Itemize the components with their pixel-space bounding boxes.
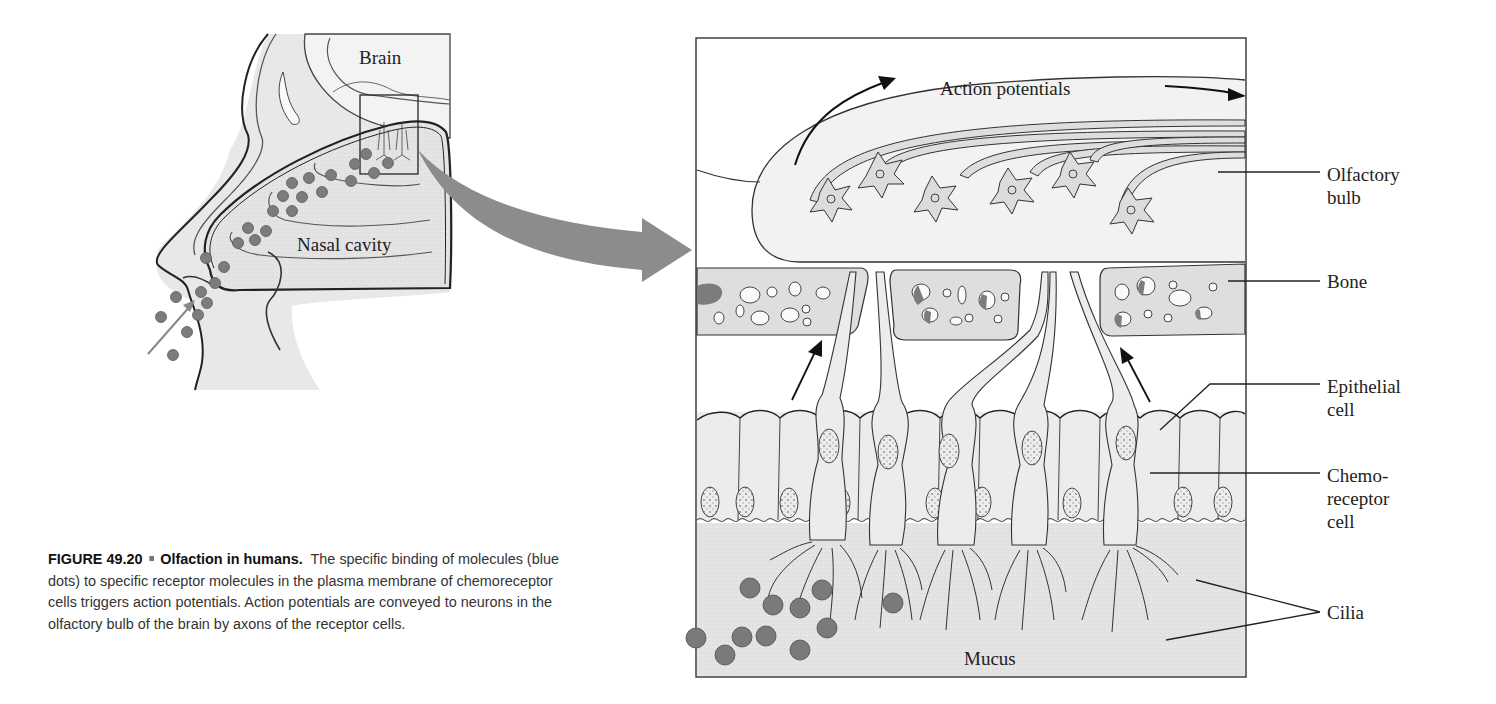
callout-olfactory-bulb: Olfactory bulb [1327, 163, 1400, 209]
callout-olfactory-bulb-line1: Olfactory [1327, 163, 1400, 186]
separator-square-icon [149, 556, 154, 561]
callout-bone-line1: Bone [1327, 270, 1367, 293]
label-nasal-cavity: Nasal cavity [297, 233, 391, 256]
bone-plates [697, 264, 1245, 340]
callout-bone: Bone [1327, 270, 1367, 293]
figure-title: Olfaction in humans. [160, 550, 303, 567]
zoom-transfer-arrow [418, 150, 692, 282]
figure-number: FIGURE 49.20 [48, 550, 143, 567]
label-action-potentials: Action potentials [940, 77, 1070, 100]
callout-chemoreceptor-cell: Chemo- receptor cell [1327, 464, 1389, 533]
callout-cilia: Cilia [1327, 601, 1364, 624]
olfaction-figure: Brain Nasal cavity Action potentials Muc… [0, 0, 1496, 704]
label-brain: Brain [359, 46, 401, 69]
label-mucus: Mucus [964, 647, 1016, 670]
callout-epithelial-line2: cell [1327, 398, 1401, 421]
callout-chemoreceptor-line1: Chemo- [1327, 464, 1389, 487]
callout-chemoreceptor-line3: cell [1327, 510, 1389, 533]
callout-epithelial-line1: Epithelial [1327, 375, 1401, 398]
callout-cilia-line1: Cilia [1327, 601, 1364, 624]
figure-caption: FIGURE 49.20Olfaction in humans. The spe… [48, 548, 578, 634]
callout-chemoreceptor-line2: receptor [1327, 487, 1389, 510]
callout-epithelial-cell: Epithelial cell [1327, 375, 1401, 421]
callout-olfactory-bulb-line2: bulb [1327, 186, 1400, 209]
